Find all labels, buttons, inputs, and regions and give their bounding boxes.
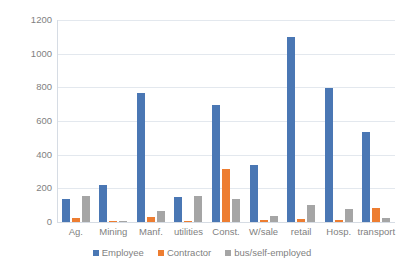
bar-group-transport <box>358 20 396 222</box>
bar-bus-self-employed-transport[interactable] <box>382 218 390 222</box>
bar-contractor-hosp[interactable] <box>335 220 343 222</box>
bar-contractor-w-sale[interactable] <box>260 220 268 222</box>
bar-employee-const[interactable] <box>212 105 220 222</box>
bar-chart: 120010008006004002000 Ag.MiningManf.util… <box>0 0 404 271</box>
bar-employee-ag[interactable] <box>62 199 70 222</box>
legend-swatch-icon <box>158 250 164 256</box>
legend-item-employee[interactable]: Employee <box>93 248 144 258</box>
y-tick-label-1200: 1200 <box>4 15 52 25</box>
bar-employee-mining[interactable] <box>99 185 107 222</box>
bar-contractor-utilities[interactable] <box>184 221 192 222</box>
legend-swatch-icon <box>93 250 99 256</box>
bar-bus-self-employed-manf[interactable] <box>157 211 165 222</box>
legend-swatch-icon <box>225 250 231 256</box>
legend-item-bus-self-employed[interactable]: bus/self-employed <box>225 248 311 258</box>
gridline-0 <box>57 222 395 223</box>
bar-contractor-manf[interactable] <box>147 217 155 222</box>
bar-employee-manf[interactable] <box>137 93 145 222</box>
bar-bus-self-employed-w-sale[interactable] <box>270 216 278 222</box>
legend-item-contractor[interactable]: Contractor <box>158 248 211 258</box>
bar-group-utilities <box>170 20 208 222</box>
bar-contractor-transport[interactable] <box>372 208 380 222</box>
y-tick-label-800: 800 <box>4 83 52 93</box>
x-tick-label-transport: transport <box>358 224 396 240</box>
bar-contractor-retail[interactable] <box>297 219 305 222</box>
bar-bus-self-employed-retail[interactable] <box>307 205 315 222</box>
bar-bus-self-employed-mining[interactable] <box>119 221 127 222</box>
x-tick-label-w-sale: W/sale <box>245 224 283 240</box>
bar-group-const <box>207 20 245 222</box>
bar-group-ag <box>57 20 95 222</box>
y-tick-label-600: 600 <box>4 116 52 126</box>
bar-bus-self-employed-utilities[interactable] <box>194 196 202 222</box>
legend-item-label: Contractor <box>167 248 211 258</box>
chart-legend: EmployeeContractorbus/self-employed <box>0 248 404 258</box>
bar-employee-utilities[interactable] <box>174 197 182 222</box>
bar-employee-transport[interactable] <box>362 132 370 222</box>
x-tick-label-hosp: Hosp. <box>320 224 358 240</box>
bar-group-mining <box>95 20 133 222</box>
x-tick-label-retail: retail <box>282 224 320 240</box>
bar-contractor-mining[interactable] <box>109 221 117 222</box>
bar-employee-retail[interactable] <box>287 37 295 222</box>
x-tick-label-mining: Mining <box>95 224 133 240</box>
bar-employee-w-sale[interactable] <box>250 165 258 222</box>
x-tick-label-utilities: utilities <box>170 224 208 240</box>
bar-group-retail <box>282 20 320 222</box>
y-axis-tick-labels: 120010008006004002000 <box>0 20 52 222</box>
bar-bus-self-employed-const[interactable] <box>232 199 240 222</box>
y-tick-label-200: 200 <box>4 184 52 194</box>
bar-group-hosp <box>320 20 358 222</box>
x-tick-label-manf: Manf. <box>132 224 170 240</box>
y-tick-label-1000: 1000 <box>4 49 52 59</box>
legend-item-label: Employee <box>102 248 144 258</box>
y-tick-label-400: 400 <box>4 150 52 160</box>
x-axis-tick-labels: Ag.MiningManf.utilitiesConst.W/saleretai… <box>57 224 395 240</box>
x-tick-label-ag: Ag. <box>57 224 95 240</box>
bar-group-w-sale <box>245 20 283 222</box>
bar-groups <box>57 20 395 222</box>
legend-item-label: bus/self-employed <box>234 248 311 258</box>
y-tick-label-0: 0 <box>4 217 52 227</box>
bar-contractor-ag[interactable] <box>72 218 80 222</box>
bar-contractor-const[interactable] <box>222 169 230 222</box>
bar-bus-self-employed-hosp[interactable] <box>345 209 353 222</box>
bar-group-manf <box>132 20 170 222</box>
x-tick-label-const: Const. <box>207 224 245 240</box>
bar-employee-hosp[interactable] <box>325 88 333 222</box>
bar-bus-self-employed-ag[interactable] <box>82 196 90 222</box>
